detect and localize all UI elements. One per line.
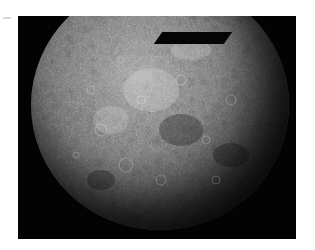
mosaic-gap bbox=[154, 32, 232, 44]
photo-frame bbox=[18, 16, 296, 239]
image-stage bbox=[0, 0, 315, 250]
edge-mark bbox=[3, 17, 11, 19]
planet-disk bbox=[31, 16, 289, 230]
